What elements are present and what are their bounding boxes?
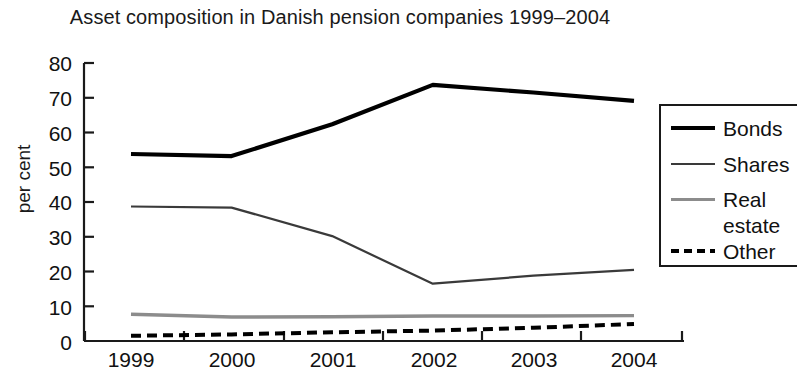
series-line-shares xyxy=(131,207,634,284)
legend-item-shares: Shares xyxy=(671,150,790,178)
series-line-real-estate xyxy=(131,314,634,317)
legend-label-bonds: Bonds xyxy=(723,118,783,139)
legend-item-real-estate: Real xyxy=(671,185,766,213)
y-axis xyxy=(84,63,94,341)
legend-label-other: Other xyxy=(723,241,776,262)
chart-legend: Bonds Shares Real estate Other xyxy=(659,104,797,267)
legend-swatch-other-icon xyxy=(671,244,715,258)
chart-figure: Asset composition in Danish pension comp… xyxy=(0,0,797,374)
series-line-bonds xyxy=(131,85,634,156)
legend-swatch-shares-icon xyxy=(671,157,715,171)
legend-swatch-real-estate-icon xyxy=(671,192,715,206)
legend-item-bonds: Bonds xyxy=(671,114,783,142)
legend-item-other: Other xyxy=(671,237,776,265)
legend-label-real-estate-cont: estate xyxy=(723,215,780,236)
legend-swatch-bonds-icon xyxy=(671,121,715,135)
legend-label-shares: Shares xyxy=(723,154,790,175)
x-axis xyxy=(84,331,684,341)
legend-label-real-estate: Real xyxy=(723,189,766,210)
